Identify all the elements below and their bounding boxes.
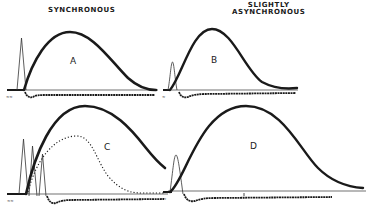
panel-d-traces: ≈ — [163, 106, 366, 201]
lower-trace — [47, 196, 164, 203]
panel-label-b: B — [211, 56, 217, 65]
panel-label-a: A — [70, 57, 76, 66]
panel-c-traces: ≈≈ — [7, 106, 168, 203]
svg-text:≈: ≈ — [163, 196, 166, 201]
diagram-figure: SYNCHRONOUS SLIGHTLY ASYNCHRONOUS ≈≈ ≈ — [0, 0, 371, 212]
lower-trace — [25, 92, 155, 97]
action-potential-spike — [17, 38, 26, 90]
contraction-curve — [170, 106, 363, 192]
svg-text:≈≈: ≈≈ — [7, 198, 14, 203]
contraction-curve — [170, 29, 297, 90]
action-potential-spike-3 — [39, 154, 46, 196]
panel-b-traces: ≈ — [162, 29, 298, 99]
lower-trace — [184, 194, 332, 201]
panel-a-traces: ≈≈ — [6, 32, 158, 99]
traces-svg: ≈≈ ≈ ≈≈ — [0, 0, 371, 212]
svg-text:≈: ≈ — [162, 94, 165, 99]
panel-label-d: D — [250, 142, 257, 151]
panel-label-c: C — [104, 143, 110, 152]
contraction-curve — [26, 106, 165, 194]
contraction-curve — [24, 32, 156, 90]
lower-trace — [179, 92, 296, 97]
svg-text:≈≈: ≈≈ — [6, 94, 13, 99]
